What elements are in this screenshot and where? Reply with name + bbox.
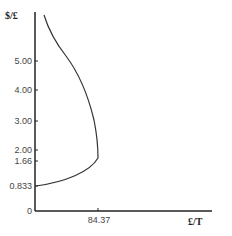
svg-text:0: 0 — [27, 206, 32, 216]
y-axis-label: $/£ — [5, 10, 18, 21]
svg-text:84.37: 84.37 — [88, 215, 111, 225]
chart: $/£ £/T 5.00 4.00 3.00 2.00 1.66 0.833 0… — [0, 0, 232, 236]
svg-text:3.00: 3.00 — [14, 116, 32, 126]
x-axis-label: £/T — [188, 216, 203, 227]
svg-text:2.00: 2.00 — [14, 145, 32, 155]
y-ticks: 5.00 4.00 3.00 2.00 1.66 0.833 0 — [9, 56, 38, 216]
chart-svg: $/£ £/T 5.00 4.00 3.00 2.00 1.66 0.833 0… — [0, 0, 232, 236]
svg-text:0.833: 0.833 — [9, 181, 32, 191]
svg-text:4.00: 4.00 — [14, 85, 32, 95]
svg-text:1.66: 1.66 — [14, 156, 32, 166]
svg-text:5.00: 5.00 — [14, 56, 32, 66]
curve — [36, 15, 98, 186]
